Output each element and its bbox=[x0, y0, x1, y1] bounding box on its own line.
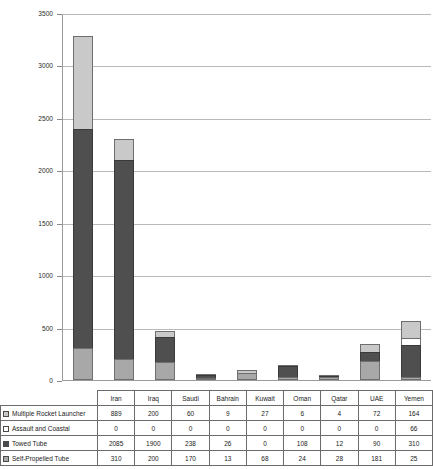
bar-segment bbox=[360, 361, 380, 380]
table-cell: 0 bbox=[246, 421, 283, 436]
bar-segment bbox=[114, 359, 134, 380]
table-header-row: IranIraqSaudiBahrainKuwaitOmanQatarUAEYe… bbox=[1, 391, 433, 406]
table-cell: 25 bbox=[395, 451, 432, 466]
y-axis: 3500300025002000150010005000 bbox=[0, 0, 62, 397]
table-cell: 181 bbox=[358, 451, 395, 466]
legend-swatch-icon bbox=[3, 426, 9, 432]
legend-label: Towed Tube bbox=[12, 440, 47, 447]
bar-group-yemen bbox=[390, 14, 431, 380]
plot-region: 3500300025002000150010005000 bbox=[0, 0, 433, 397]
table-column-header: Yemen bbox=[395, 391, 432, 406]
legend-entry: Self-Propelled Tube bbox=[1, 451, 98, 466]
table-cell: 27 bbox=[246, 406, 283, 421]
table-cell: 1900 bbox=[135, 436, 172, 451]
bar-segment bbox=[360, 344, 380, 352]
bar-segment bbox=[360, 352, 380, 361]
bar-stack bbox=[114, 139, 134, 380]
bar-group-uae bbox=[349, 14, 390, 380]
table-cell: 164 bbox=[395, 406, 432, 421]
y-tick-label: 1500 bbox=[38, 220, 53, 227]
legend-entry: Assault and Coastal bbox=[1, 421, 98, 436]
y-tick-label: 2000 bbox=[38, 168, 53, 175]
bar-stack bbox=[73, 36, 93, 380]
table-cell: 310 bbox=[395, 436, 432, 451]
bar-segment bbox=[114, 160, 134, 359]
table-cell: 108 bbox=[284, 436, 321, 451]
table-cell: 9 bbox=[209, 406, 246, 421]
legend-label: Multiple Rocket Launcher bbox=[12, 410, 85, 417]
bar-segment bbox=[73, 129, 93, 348]
table-cell: 2085 bbox=[98, 436, 135, 451]
legend-swatch-icon bbox=[3, 411, 9, 417]
bar-segment bbox=[237, 373, 257, 380]
table-row: Self-Propelled Tube310200170136824281812… bbox=[1, 451, 433, 466]
table-head: IranIraqSaudiBahrainKuwaitOmanQatarUAEYe… bbox=[1, 391, 433, 406]
bar-segment bbox=[401, 377, 421, 380]
legend-swatch-icon bbox=[3, 441, 9, 447]
table-corner-cell bbox=[1, 391, 98, 406]
table-cell: 170 bbox=[172, 451, 209, 466]
table-cell: 200 bbox=[135, 451, 172, 466]
data-table-container: IranIraqSaudiBahrainKuwaitOmanQatarUAEYe… bbox=[0, 390, 433, 466]
table-cell: 60 bbox=[172, 406, 209, 421]
bar-group-oman bbox=[267, 14, 308, 380]
y-tick-label: 0 bbox=[49, 378, 53, 385]
bar-group-bahrain bbox=[186, 14, 227, 380]
bar-segment bbox=[114, 139, 134, 160]
table-cell: 6 bbox=[284, 406, 321, 421]
table-cell: 68 bbox=[246, 451, 283, 466]
plot-area bbox=[62, 14, 431, 381]
bar-segment bbox=[155, 362, 175, 380]
bar-segment bbox=[73, 36, 93, 129]
y-tick-label: 2500 bbox=[38, 116, 53, 123]
bar-segment bbox=[401, 321, 421, 338]
table-cell: 0 bbox=[135, 421, 172, 436]
table-cell: 0 bbox=[209, 421, 246, 436]
bar-stack bbox=[401, 321, 421, 380]
table-column-header: Kuwait bbox=[246, 391, 283, 406]
legend-entry: Multiple Rocket Launcher bbox=[1, 406, 98, 421]
bar-segment bbox=[196, 378, 216, 380]
table-row: Assault and Coastal0000000066 bbox=[1, 421, 433, 436]
y-tick-mark bbox=[57, 381, 62, 382]
table-column-header: Bahrain bbox=[209, 391, 246, 406]
y-tick-label: 3000 bbox=[38, 63, 53, 70]
table-column-header: Qatar bbox=[321, 391, 358, 406]
table-cell: 310 bbox=[98, 451, 135, 466]
table-cell: 72 bbox=[358, 406, 395, 421]
bar-segment bbox=[401, 345, 421, 378]
bar-segment bbox=[401, 338, 421, 345]
bar-segment bbox=[278, 377, 298, 380]
bar-group-iraq bbox=[104, 14, 145, 380]
table-cell: 90 bbox=[358, 436, 395, 451]
table-cell: 0 bbox=[284, 421, 321, 436]
bar-segment bbox=[73, 348, 93, 381]
bar-stack bbox=[196, 374, 216, 380]
table-cell: 0 bbox=[246, 436, 283, 451]
table-cell: 26 bbox=[209, 436, 246, 451]
table-cell: 0 bbox=[98, 421, 135, 436]
table-cell: 66 bbox=[395, 421, 432, 436]
bars-layer bbox=[63, 14, 431, 380]
bar-stack bbox=[360, 344, 380, 380]
bar-group-kuwait bbox=[227, 14, 268, 380]
bar-group-iran bbox=[63, 14, 104, 380]
table-column-header: UAE bbox=[358, 391, 395, 406]
legend-entry: Towed Tube bbox=[1, 436, 98, 451]
table-cell: 13 bbox=[209, 451, 246, 466]
table-cell: 238 bbox=[172, 436, 209, 451]
y-tick-label: 1000 bbox=[38, 273, 53, 280]
legend-swatch-icon bbox=[3, 456, 9, 462]
table-column-header: Saudi bbox=[172, 391, 209, 406]
table-cell: 200 bbox=[135, 406, 172, 421]
table-cell: 4 bbox=[321, 406, 358, 421]
bar-group-qatar bbox=[308, 14, 349, 380]
table-cell: 12 bbox=[321, 436, 358, 451]
bar-segment bbox=[278, 366, 298, 377]
table-row: Towed Tube208519002382601081290310 bbox=[1, 436, 433, 451]
bar-segment bbox=[155, 337, 175, 362]
table-cell: 0 bbox=[172, 421, 209, 436]
y-tick-label: 500 bbox=[42, 325, 53, 332]
table-column-header: Oman bbox=[284, 391, 321, 406]
bar-segment bbox=[319, 377, 339, 380]
